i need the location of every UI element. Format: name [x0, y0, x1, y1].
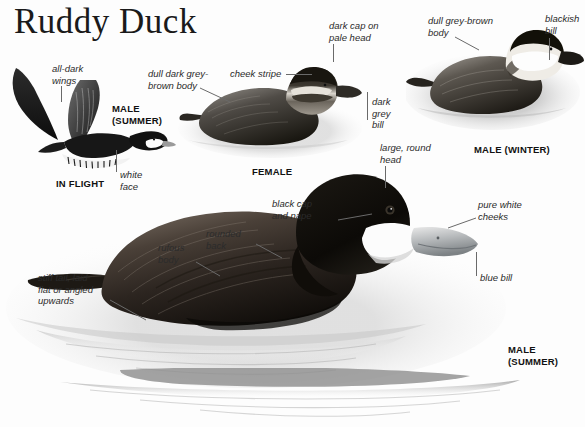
leader-all-dark-wings — [61, 86, 62, 102]
annotation-blackish-bill: blackish bill — [545, 13, 579, 36]
field-guide-page: Ruddy Duck — [0, 0, 585, 427]
annotation-dark-cap-on-pale-head: dark cap on pale head — [329, 20, 379, 43]
leader-dull-dark-grey-brown-body — [200, 88, 236, 106]
annotation-rounded-back: rounded back — [206, 228, 241, 251]
annotation-dark-grey-bill: dark grey bill — [372, 96, 390, 131]
leader-pure-white-cheeks — [448, 218, 480, 232]
annotation-dull-grey-brown-body: dull grey-brown body — [428, 15, 493, 38]
leader-stiff-tail — [110, 300, 152, 324]
leader-rufous-body — [196, 262, 226, 280]
page-title: Ruddy Duck — [14, 2, 197, 42]
annotation-black-cap-and-nape: black cap and nape — [272, 198, 312, 221]
leader-large-round-head — [385, 166, 386, 188]
annotation-large-round-head: large, round head — [380, 142, 431, 165]
annotation-cheek-stripe: cheek stripe — [230, 68, 281, 80]
leader-dark-grey-bill — [367, 92, 368, 120]
annotation-rufous-body: rufous body — [158, 242, 184, 265]
leader-rounded-back — [256, 244, 288, 262]
annotation-all-dark-wings: all-dark wings — [52, 63, 83, 86]
leader-blue-bill — [476, 252, 477, 276]
leader-black-cap-and-nape — [338, 212, 376, 222]
caption-male-summer-flight: MALE (SUMMER) — [112, 103, 162, 126]
leader-dark-cap-on-pale-head — [333, 44, 334, 62]
annotation-pure-white-cheeks: pure white cheeks — [478, 199, 522, 222]
leader-cheek-stripe — [286, 74, 312, 75]
caption-male-winter: MALE (WINTER) — [474, 144, 550, 156]
leader-blackish-bill — [549, 38, 550, 60]
caption-male-summer-main: MALE (SUMMER) — [508, 344, 558, 367]
annotation-blue-bill: blue bill — [480, 272, 512, 284]
water-surface — [0, 368, 585, 427]
annotation-stiff-tail: stiff tail, laid flat or angled upwards — [38, 272, 93, 307]
leader-dull-grey-brown-body — [455, 37, 485, 55]
figure-male-winter — [406, 22, 584, 132]
